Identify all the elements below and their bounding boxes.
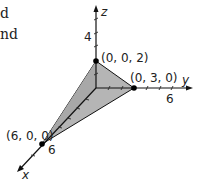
- z-axis-arrow-icon: [94, 5, 99, 12]
- z-tick-label: 4: [84, 30, 92, 44]
- y-tick-label: 6: [166, 92, 174, 106]
- point-label-0-0-2: (0, 0, 2): [101, 51, 149, 65]
- point-label-6-0-0: (6, 0, 0): [6, 129, 54, 143]
- x-tick-label: 6: [48, 143, 56, 157]
- point-label-0-3-0: (0, 3, 0): [130, 71, 178, 85]
- z-axis-label: z: [100, 5, 108, 19]
- point-0-0-2: [93, 58, 99, 64]
- point-0-3-0: [131, 85, 137, 91]
- y-axis-label: y: [181, 73, 190, 87]
- x-axis-label: x: [21, 168, 30, 182]
- 3d-tetrahedron-diagram: z 4 y 6 x 6 (0, 0, 2) (0, 3, 0) (6, 0, 0…: [0, 0, 197, 182]
